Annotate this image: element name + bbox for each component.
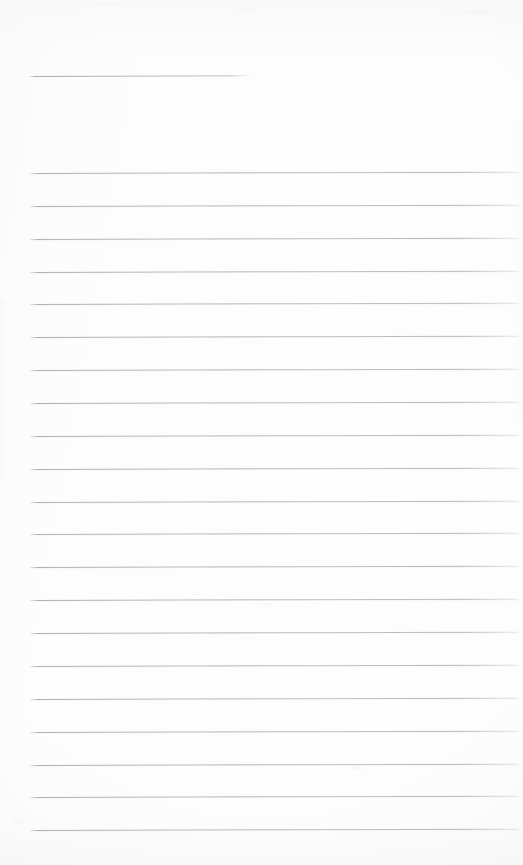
ruled-line <box>30 764 520 766</box>
ruled-line <box>30 238 520 240</box>
ruled-line <box>30 172 520 174</box>
ruled-line <box>30 698 520 700</box>
ruled-line <box>30 533 520 535</box>
scanned-page <box>0 0 523 865</box>
ruled-line <box>30 369 520 371</box>
ruled-line <box>30 829 520 831</box>
ruled-line <box>30 336 520 338</box>
ruled-line <box>30 205 520 207</box>
ruled-line <box>30 665 520 667</box>
header-rule <box>29 75 249 77</box>
scan-speckle-noise <box>0 0 523 865</box>
ruled-line <box>30 501 520 503</box>
ruled-line <box>30 303 520 305</box>
ruled-line <box>30 271 520 273</box>
ruled-line <box>30 632 520 634</box>
ruled-line <box>30 731 520 733</box>
ruled-line <box>30 402 520 404</box>
ruled-line <box>30 599 520 601</box>
ruled-line <box>30 566 520 568</box>
ruled-line <box>30 796 520 798</box>
paper-texture <box>0 0 523 865</box>
ruled-line <box>30 468 520 470</box>
ruled-line <box>30 435 520 437</box>
